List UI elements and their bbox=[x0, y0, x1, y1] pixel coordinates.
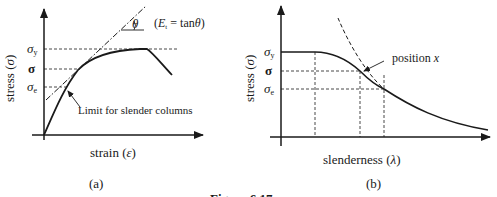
tangent-line bbox=[46, 6, 146, 100]
tangent-annotation: (Et = tanθ) bbox=[154, 16, 205, 31]
tick-sigma-e-b: σe bbox=[264, 81, 274, 97]
theta-label-a: θ bbox=[132, 16, 139, 31]
limit-annotation: Limit for slender columns bbox=[78, 104, 193, 116]
x-axis-label-b: slenderness (λ) bbox=[323, 152, 401, 167]
x-axis-label-a: strain (ε) bbox=[90, 145, 136, 160]
tick-sigma-e-a: σe bbox=[27, 79, 37, 95]
tick-sigma-a: σ bbox=[28, 61, 35, 76]
figure-caption: Figure 6.17 bbox=[210, 191, 273, 197]
euler-curve bbox=[338, 18, 384, 89]
caption-b: (b) bbox=[366, 176, 381, 191]
y-axis-label-b: stress (σ) bbox=[242, 55, 257, 102]
tick-sigma-b: σ bbox=[265, 63, 272, 78]
figure-canvas: σy σ σe θ (Et = tanθ) Limit for slender … bbox=[0, 0, 497, 197]
position-arrow bbox=[364, 61, 384, 71]
caption-a: (a) bbox=[89, 176, 103, 191]
tick-sigma-y-b: σy bbox=[264, 44, 274, 60]
column-curve bbox=[281, 52, 488, 130]
panel-b: σy σ σe position x stress (σ) slendernes… bbox=[242, 6, 490, 191]
stress-strain-curve bbox=[44, 49, 172, 135]
y-axis-label-a: stress (σ) bbox=[2, 55, 17, 102]
position-annotation: position x bbox=[392, 51, 440, 65]
tick-sigma-y-a: σy bbox=[27, 41, 37, 57]
panel-a: σy σ σe θ (Et = tanθ) Limit for slender … bbox=[2, 6, 205, 191]
